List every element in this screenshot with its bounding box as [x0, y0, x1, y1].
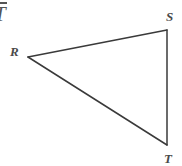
edge-RT: [28, 57, 167, 145]
segment-notation-text: T: [0, 2, 6, 25]
vertex-label-R: R: [10, 45, 19, 58]
geometry-figure: T R S T: [0, 0, 182, 166]
triangle-drawing-canvas: [0, 0, 182, 166]
vertex-label-T: T: [164, 152, 172, 165]
vertex-label-S: S: [166, 10, 173, 23]
segment-notation-expression: T: [0, 2, 6, 25]
edge-RS: [28, 30, 167, 57]
